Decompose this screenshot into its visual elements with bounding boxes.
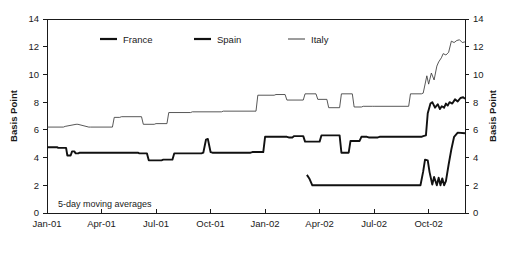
y-tick-label-left: 14 bbox=[28, 13, 39, 24]
y-tick-label-left: 2 bbox=[34, 180, 39, 191]
y-tick-label-right: 12 bbox=[473, 41, 484, 52]
y-axis-ticks: 0022446688101012121414 bbox=[28, 13, 483, 218]
y-tick-label-left: 6 bbox=[34, 124, 39, 135]
y-tick-label-right: 8 bbox=[473, 97, 478, 108]
legend-label-spain: Spain bbox=[217, 34, 241, 45]
x-axis-ticks: Jan-01Apr-01Jul-01Oct-01Jan-02Apr-02Jul-… bbox=[32, 209, 442, 229]
axes-group bbox=[47, 19, 465, 213]
x-tick-label: Jan-02 bbox=[251, 218, 280, 229]
x-tick-label: Apr-01 bbox=[87, 218, 116, 229]
y-axis-title-left: Basis Point bbox=[8, 89, 19, 142]
y-tick-label-left: 0 bbox=[34, 207, 39, 218]
y-tick-label-left: 10 bbox=[28, 69, 39, 80]
series-line-italy bbox=[47, 40, 465, 127]
y-tick-label-left: 12 bbox=[28, 41, 39, 52]
y-tick-label-right: 0 bbox=[473, 207, 478, 218]
line-chart: 0022446688101012121414 Jan-01Apr-01Jul-0… bbox=[0, 0, 510, 258]
chart-annotation: 5-day moving averages bbox=[58, 199, 152, 209]
legend-label-italy: Italy bbox=[311, 34, 329, 45]
x-tick-label: Oct-02 bbox=[414, 218, 443, 229]
x-tick-label: Jul-01 bbox=[143, 218, 169, 229]
y-tick-label-right: 14 bbox=[473, 13, 484, 24]
y-tick-label-left: 8 bbox=[34, 97, 39, 108]
y-tick-label-right: 10 bbox=[473, 69, 484, 80]
x-tick-label: Jan-01 bbox=[32, 218, 61, 229]
y-tick-label-right: 2 bbox=[473, 180, 478, 191]
chart-canvas: 0022446688101012121414 Jan-01Apr-01Jul-0… bbox=[0, 0, 510, 258]
y-axis-title-right: Basis Point bbox=[487, 89, 498, 142]
x-tick-label: Oct-01 bbox=[196, 218, 225, 229]
y-tick-label-right: 6 bbox=[473, 124, 478, 135]
y-tick-label-left: 4 bbox=[34, 152, 39, 163]
series-line-spain bbox=[307, 133, 465, 186]
legend-label-france: France bbox=[123, 34, 153, 45]
series-line-france bbox=[47, 97, 465, 160]
x-tick-label: Jul-02 bbox=[361, 218, 387, 229]
data-series-group bbox=[47, 40, 465, 186]
x-tick-label: Apr-02 bbox=[305, 218, 334, 229]
chart-legend: FranceSpainItaly bbox=[100, 34, 329, 45]
y-tick-label-right: 4 bbox=[473, 152, 478, 163]
